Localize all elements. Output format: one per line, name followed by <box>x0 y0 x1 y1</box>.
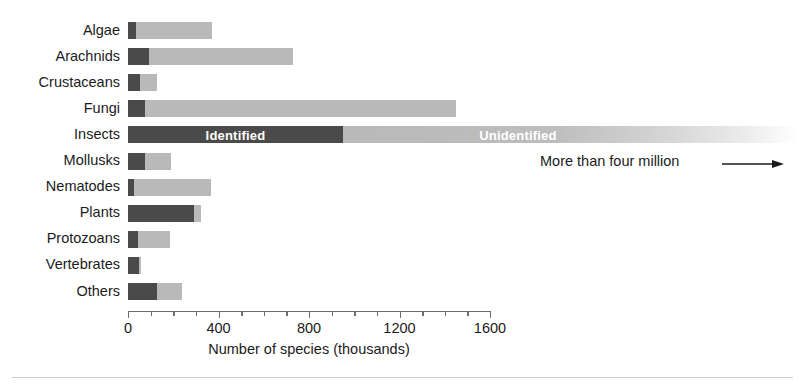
bar-row-plants <box>128 205 201 222</box>
category-label-insects: Insects <box>10 127 120 142</box>
x-tick-1200 <box>400 311 401 318</box>
x-tick-label-400: 400 <box>206 320 230 336</box>
bar-label-identified: Identified <box>206 127 266 142</box>
bar-segment-identified-fungi <box>128 100 145 117</box>
x-tick-200 <box>173 311 174 316</box>
x-tick-1600 <box>490 311 491 318</box>
bar-segment-identified-crustaceans <box>128 74 140 91</box>
bar-segment-unidentified-plants <box>194 205 201 222</box>
bar-segment-unidentified-mollusks <box>145 153 171 170</box>
bar-row-vertebrates <box>128 257 141 274</box>
x-tick-900 <box>332 311 333 316</box>
bar-segment-unidentified-crustaceans <box>140 74 157 91</box>
category-label-mollusks: Mollusks <box>10 153 120 168</box>
category-label-crustaceans: Crustaceans <box>10 75 120 90</box>
x-tick-500 <box>241 311 242 316</box>
bar-label-unidentified: Unidentified <box>479 127 557 142</box>
x-tick-label-0: 0 <box>124 320 132 336</box>
bar-segment-identified-plants <box>128 205 194 222</box>
x-tick-0 <box>128 311 129 318</box>
bar-row-arachnids <box>128 48 293 65</box>
bar-row-nematodes <box>128 179 211 196</box>
category-label-column: AlgaeArachnidsCrustaceansFungiInsectsMol… <box>8 0 120 310</box>
bar-segment-identified-arachnids <box>128 48 149 65</box>
x-tick-1500 <box>467 311 468 316</box>
bar-row-protozoans <box>128 231 170 248</box>
bar-segment-identified-vertebrates <box>128 257 139 274</box>
bar-segment-unidentified-protozoans <box>138 231 170 248</box>
category-label-protozoans: Protozoans <box>10 231 120 246</box>
category-label-algae: Algae <box>10 23 120 38</box>
bar-segment-identified-algae <box>128 22 136 39</box>
footer-divider <box>12 377 793 378</box>
x-tick-label-800: 800 <box>297 320 321 336</box>
bar-row-fungi <box>128 100 456 117</box>
plot-area: IdentifiedUnidentified <box>128 0 798 310</box>
category-label-nematodes: Nematodes <box>10 179 120 194</box>
x-tick-600 <box>264 311 265 316</box>
x-tick-1100 <box>377 311 378 316</box>
bar-segment-unidentified-others <box>157 283 182 300</box>
bar-segment-unidentified-algae <box>136 22 212 39</box>
x-tick-700 <box>286 311 287 316</box>
category-label-plants: Plants <box>10 205 120 220</box>
bar-segment-identified-mollusks <box>128 153 145 170</box>
x-tick-400 <box>219 311 220 318</box>
x-tick-800 <box>309 311 310 318</box>
category-label-vertebrates: Vertebrates <box>10 257 120 272</box>
category-label-arachnids: Arachnids <box>10 49 120 64</box>
bar-row-mollusks <box>128 153 171 170</box>
category-label-others: Others <box>10 284 120 299</box>
x-tick-1300 <box>422 311 423 316</box>
category-label-fungi: Fungi <box>10 101 120 116</box>
bar-segment-identified-protozoans <box>128 231 138 248</box>
x-tick-100 <box>151 311 152 316</box>
bar-row-crustaceans <box>128 74 157 91</box>
bar-row-algae <box>128 22 212 39</box>
species-chart-figure: AlgaeArachnidsCrustaceansFungiInsectsMol… <box>0 0 805 388</box>
bar-segment-identified-others <box>128 283 157 300</box>
x-tick-1000 <box>354 311 355 316</box>
bar-segment-unidentified-vertebrates <box>139 257 141 274</box>
x-tick-300 <box>196 311 197 316</box>
annotation-more-than-four-million: More than four million <box>540 153 679 169</box>
x-tick-label-1600: 1600 <box>474 320 506 336</box>
bar-row-others <box>128 283 182 300</box>
right-arrow-icon <box>722 159 784 169</box>
bar-row-insects: IdentifiedUnidentified <box>128 126 798 143</box>
bar-segment-unidentified-fungi <box>145 100 456 117</box>
bar-segment-unidentified-insects <box>343 126 798 143</box>
bar-segment-unidentified-arachnids <box>149 48 293 65</box>
x-tick-label-1200: 1200 <box>383 320 415 336</box>
x-axis-title: Number of species (thousands) <box>128 341 490 357</box>
x-tick-1400 <box>445 311 446 316</box>
bar-segment-unidentified-nematodes <box>134 179 211 196</box>
